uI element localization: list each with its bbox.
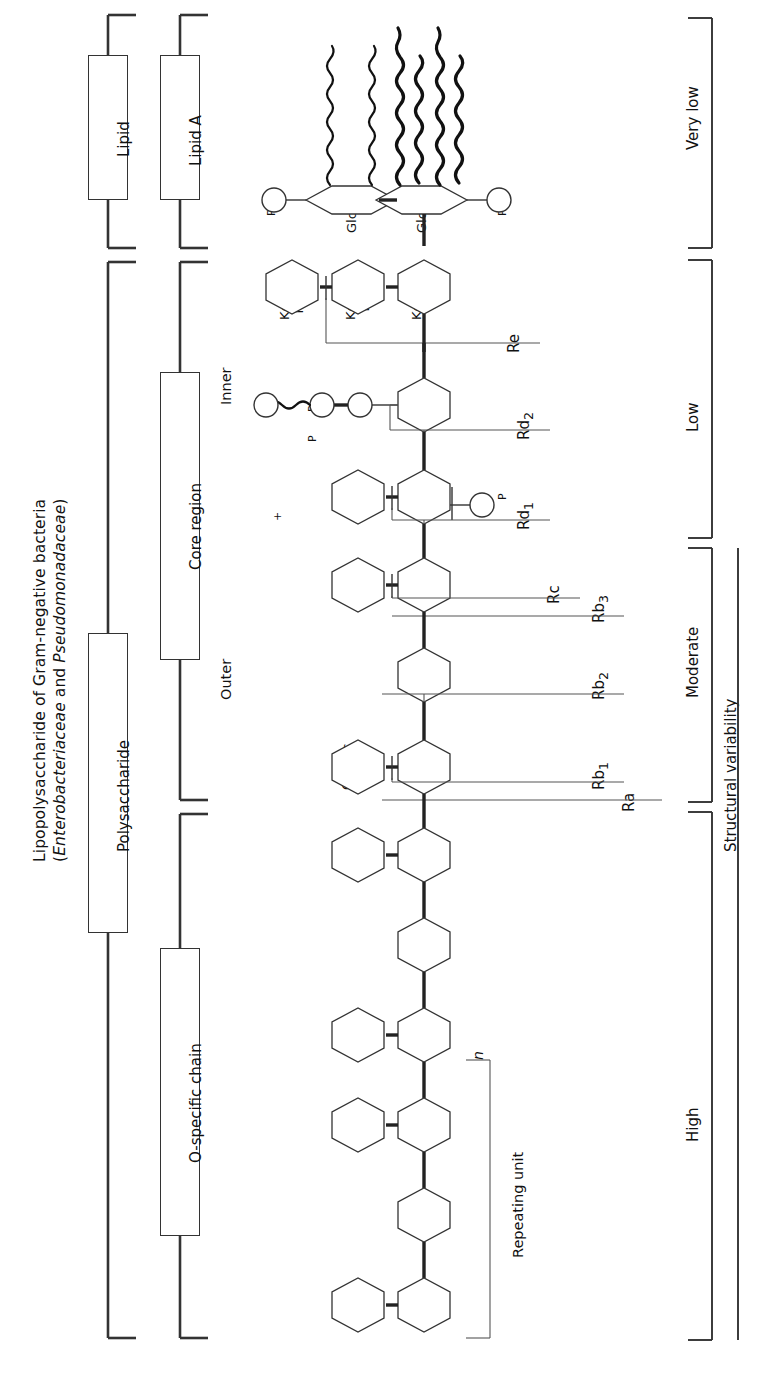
bracket-o-specific-chain [180,814,208,1338]
acyl-chains [327,28,463,185]
hexagon-glcnac [332,740,384,794]
bracket-polysaccharide [108,262,136,1338]
bracket-repeating-unit [466,1060,490,1338]
ochain-unit-5 [332,1278,450,1332]
ochain-unit-1 [332,828,450,1008]
hexagon-kdo1 [398,260,450,314]
hexagon-hep2 [398,470,450,524]
ochain-unit-4 [398,1188,450,1278]
bracket-very-low [688,18,712,248]
hexagon-glc2 [398,740,450,794]
phosphate-group-2 [467,188,511,212]
hexagon-glc1 [398,558,450,612]
phosphate-chain-hep1 [254,393,398,417]
phosphate-group-hep2 [450,487,494,520]
bracket-moderate [688,548,712,802]
hexagon-gal1 [332,558,384,612]
bracket-lipid [108,15,136,248]
lps-diagram: Lipopolysaccharide of Gram-negative bact… [0,0,765,1376]
hexagon-kdo2 [332,260,384,314]
ochain-unit-3 [332,1098,450,1188]
hexagon-hep3 [332,470,384,524]
diagram-vectors [0,0,765,1376]
bracket-core-region [180,262,208,800]
bracket-high [688,812,712,1340]
chemotype-line-Rb3 [392,612,624,616]
ochain-unit-2 [332,1008,450,1098]
bracket-low [688,260,712,538]
bracket-lipid-a [180,15,208,248]
hexagon-kdo3 [266,260,318,314]
phosphate-group-1 [262,188,306,212]
hexagon-hep1 [398,378,450,432]
